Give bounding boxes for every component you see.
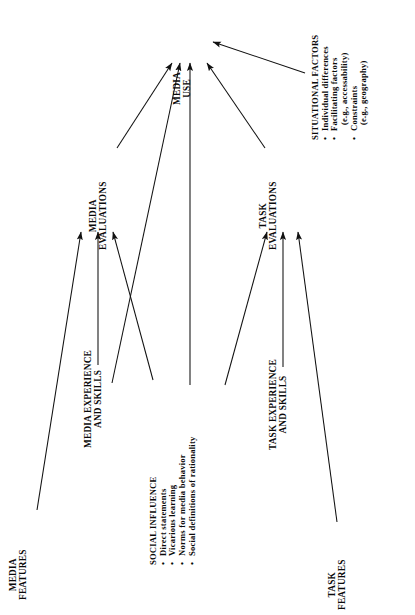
social-influence-bullet-2-text: Vicarious learning xyxy=(167,485,177,556)
edge-social-influence-to-task-evaluations xyxy=(225,232,267,385)
node-task-experience-and-skills: TASK EXPERIENCE AND SKILLS xyxy=(268,359,289,450)
edge-social-influence-to-media-evaluations xyxy=(113,232,153,380)
node-media-use-line-2: USE xyxy=(182,72,192,105)
edge-task-evaluations-to-media-use xyxy=(207,63,265,148)
node-media-evaluations-line-2: EVALUATIONS xyxy=(98,181,108,250)
node-task-features-line-1: TASK xyxy=(327,559,337,610)
node-task-features: TASK FEATURES xyxy=(327,559,348,610)
situational-factors-bullet-3-sub: (e.g., geography) xyxy=(359,35,369,131)
situational-factors-bullet-3: Constraints (e.g., geography) xyxy=(350,35,369,140)
node-social-influence: SOCIAL INFLUENCE Direct statements Vicar… xyxy=(149,436,197,565)
edge-task-features-to-task-evaluations xyxy=(298,232,337,522)
node-media-use: MEDIA USE xyxy=(172,72,193,105)
social-influence-bullet-3-text: Norms for media behavior xyxy=(177,454,187,556)
node-task-experience-line-1: TASK EXPERIENCE xyxy=(268,359,278,450)
node-media-evaluations-line-1: MEDIA xyxy=(88,181,98,250)
node-media-evaluations: MEDIA EVALUATIONS xyxy=(88,181,109,250)
concept-model-diagram: MEDIA USE MEDIA EVALUATIONS TASK EVALUAT… xyxy=(0,0,415,615)
node-task-features-line-2: FEATURES xyxy=(337,559,347,610)
node-task-evaluations: TASK EVALUATIONS xyxy=(258,181,279,250)
node-media-experience-line-1: MEDIA EXPERIENCE xyxy=(83,350,93,448)
edge-media-features-to-media-evaluations xyxy=(37,232,81,510)
node-media-features-line-2: FEATURES xyxy=(18,549,28,600)
node-media-experience-line-2: AND SKILLS xyxy=(93,350,103,448)
situational-factors-bullet-3-text: Constraints xyxy=(349,86,359,131)
situational-factors-bullet-2: Facilitating factors (e.g., accessabilit… xyxy=(330,35,349,140)
node-media-features: MEDIA FEATURES xyxy=(8,549,29,600)
node-task-evaluations-line-1: TASK xyxy=(258,181,268,250)
edge-media-experience-to-media-use xyxy=(112,63,180,383)
social-influence-bullets: Direct statements Vicarious learning Nor… xyxy=(159,436,198,565)
node-media-use-line-1: MEDIA xyxy=(172,72,182,105)
node-task-experience-line-2: AND SKILLS xyxy=(278,359,288,450)
situational-factors-bullet-1-text: Individual differences xyxy=(320,46,330,131)
situational-factors-bullet-2-text: Facilitating factors xyxy=(329,58,339,131)
node-media-features-line-1: MEDIA xyxy=(8,549,18,600)
social-influence-bullet-4: Social definitions of rationality xyxy=(188,436,198,565)
node-task-evaluations-line-2: EVALUATIONS xyxy=(268,181,278,250)
node-situational-factors: SITUATIONAL FACTORS Individual differenc… xyxy=(311,35,369,140)
social-influence-bullet-1-text: Direct statements xyxy=(158,489,168,556)
edge-situational-factors-to-media-use xyxy=(213,42,305,73)
node-media-experience-and-skills: MEDIA EXPERIENCE AND SKILLS xyxy=(83,350,104,448)
edge-media-evaluations-to-media-use xyxy=(117,63,172,148)
social-influence-bullet-4-text: Social definitions of rationality xyxy=(187,436,197,556)
situational-factors-bullets: Individual differences Facilitating fact… xyxy=(321,35,369,140)
